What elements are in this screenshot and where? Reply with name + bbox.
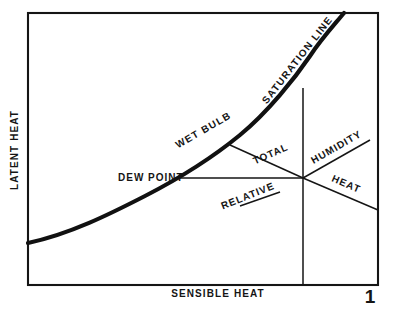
saturation-line-curve — [28, 13, 344, 243]
x-axis-label: SENSIBLE HEAT — [171, 288, 265, 299]
humidity-label: HUMIDITY — [309, 128, 363, 166]
y-axis-label: LATENT HEAT — [9, 110, 20, 190]
figure-number: 1 — [365, 286, 376, 307]
wet-bulb-label: WET BULB — [173, 110, 233, 151]
psychrometric-chart-figure: LATENT HEAT SENSIBLE HEAT SATURATION LIN… — [0, 0, 400, 310]
psychrometric-diagram: LATENT HEAT SENSIBLE HEAT SATURATION LIN… — [0, 0, 400, 310]
saturation-line-label: SATURATION LINE — [260, 14, 335, 106]
dew-point-label: DEW POINT — [118, 172, 184, 183]
